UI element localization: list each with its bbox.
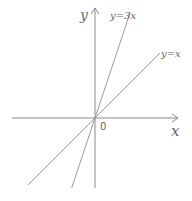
line-label-y-eq-x: y=x [160,48,181,59]
origin-label: 0 [100,121,106,132]
y-axis-label: y [79,7,89,23]
line-label-y-eq-3x: y=3x [109,10,136,21]
graph: y y=3x y=x 0 x [0,0,192,201]
x-axis-label: x [171,122,180,140]
line-y-eq-3x [72,12,131,188]
line-y-eq-x [28,53,160,185]
